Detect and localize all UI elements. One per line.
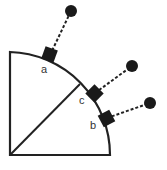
- ball-b: [144, 97, 156, 109]
- label-b: b: [90, 119, 96, 131]
- radial-line: [10, 84, 80, 155]
- quarter-circle-diagram: a c b: [0, 0, 167, 170]
- square-c: [85, 84, 103, 102]
- connector-a: [50, 11, 71, 55]
- label-c: c: [79, 94, 85, 106]
- label-a: a: [41, 63, 48, 75]
- ball-a: [65, 5, 77, 17]
- connector-b: [107, 103, 150, 118]
- square-a: [41, 46, 58, 63]
- connector-c: [95, 66, 132, 93]
- ball-c: [126, 60, 138, 72]
